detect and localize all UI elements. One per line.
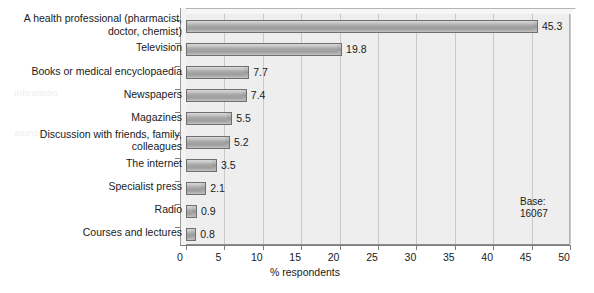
value-tick-label: 40 — [481, 251, 493, 263]
category-label-line: Specialist press — [2, 180, 182, 193]
base-annotation-label: Base: — [520, 196, 548, 208]
bar — [186, 182, 202, 195]
bar — [186, 89, 243, 102]
bar-value-label: 2.1 — [210, 181, 225, 195]
bar-row: 7.7 — [186, 66, 250, 79]
category-label-line: Newspapers — [2, 88, 182, 101]
gridline — [455, 14, 456, 244]
bar — [186, 43, 338, 56]
category-label: Television — [2, 41, 182, 54]
bar-chart-figure: anslation of Nutritio nutrition oitamrof… — [0, 0, 594, 293]
value-axis-line — [180, 245, 571, 246]
value-axis-title-text: % respondents — [270, 266, 340, 278]
value-tick-label: 35 — [443, 251, 455, 263]
value-tick — [340, 246, 341, 250]
bar-row: 5.2 — [186, 136, 231, 149]
category-label-line: The internet — [2, 157, 182, 170]
bar-end-cap — [244, 66, 249, 79]
bar-row: 45.3 — [186, 20, 539, 33]
category-label-line: Courses and lectures — [2, 226, 182, 239]
value-tick — [416, 246, 417, 250]
category-label: Newspapers — [2, 88, 182, 101]
category-label-line: doctor, chemist) — [2, 25, 182, 38]
value-tick — [455, 246, 456, 250]
category-label-line: Television — [2, 41, 182, 54]
category-label-line: Books or medical encyclopaedia — [2, 65, 182, 78]
gridline — [378, 14, 379, 244]
value-tick-label: 45 — [520, 251, 532, 263]
bar-value-label: 3.5 — [221, 158, 236, 172]
bar-row: 3.5 — [186, 159, 218, 172]
bar-value-label: 7.7 — [253, 65, 268, 79]
value-tick — [532, 246, 533, 250]
bar-value-label: 0.9 — [201, 204, 216, 218]
value-tick-label: 25 — [366, 251, 378, 263]
gridline — [493, 14, 494, 244]
category-label-line: colleagues — [2, 140, 182, 153]
bar-row: 0.8 — [186, 228, 197, 241]
bar-end-cap — [192, 205, 197, 218]
bar — [186, 20, 534, 33]
bar-end-cap — [191, 228, 196, 241]
gridline — [416, 14, 417, 244]
value-tick — [186, 246, 187, 250]
category-label-line: Magazines — [2, 111, 182, 124]
bar-value-label: 0.8 — [200, 227, 215, 241]
bar-value-label: 19.8 — [346, 42, 366, 56]
category-label: Specialist press — [2, 180, 182, 193]
category-label: Radio — [2, 203, 182, 216]
bar-row: 2.1 — [186, 182, 207, 195]
bar-end-cap — [227, 112, 232, 125]
bar-row: 7.4 — [186, 89, 248, 102]
value-tick — [224, 246, 225, 250]
bar-end-cap — [337, 43, 342, 56]
bar-end-cap — [242, 89, 247, 102]
bar-end-cap — [212, 159, 217, 172]
bar — [186, 66, 245, 79]
bar-end-cap — [533, 20, 538, 33]
bar-value-label: 5.2 — [234, 135, 249, 149]
bar-end-cap — [225, 136, 230, 149]
bar-row: 19.8 — [186, 43, 343, 56]
category-label: Books or medical encyclopaedia — [2, 65, 182, 78]
category-label-line: A health professional (pharmacist, — [2, 12, 182, 25]
bar-value-label: 7.4 — [251, 88, 266, 102]
category-label: Discussion with friends, family,colleagu… — [2, 128, 182, 153]
gridline — [570, 14, 571, 244]
bar-end-cap — [201, 182, 206, 195]
base-annotation-value: 16067 — [520, 208, 548, 220]
category-label-line: Discussion with friends, family, — [2, 128, 182, 141]
value-tick — [378, 246, 379, 250]
value-tick — [301, 246, 302, 250]
bar-row: 5.5 — [186, 112, 233, 125]
value-tick — [570, 246, 571, 250]
bar — [186, 112, 228, 125]
value-tick-label: 0 — [177, 251, 183, 263]
value-tick — [493, 246, 494, 250]
value-tick-label: 15 — [289, 251, 301, 263]
value-tick-label: 20 — [328, 251, 340, 263]
category-label: The internet — [2, 157, 182, 170]
plot-area: 45.319.87.77.45.55.23.52.10.90.8 — [186, 14, 570, 245]
value-tick-label: 50 — [558, 251, 570, 263]
bar-value-label: 45.3 — [542, 19, 562, 33]
bar-row: 0.9 — [186, 205, 198, 218]
value-tick-label: 30 — [405, 251, 417, 263]
category-label: Magazines — [2, 111, 182, 124]
value-axis-title: % respondents — [0, 266, 594, 278]
category-label: Courses and lectures — [2, 226, 182, 239]
bar — [186, 136, 226, 149]
base-annotation: Base: 16067 — [520, 196, 548, 220]
category-label-line: Radio — [2, 203, 182, 216]
category-label: A health professional (pharmacist,doctor… — [2, 12, 182, 37]
value-tick-label: 5 — [215, 251, 221, 263]
value-tick — [263, 246, 264, 250]
bar — [186, 159, 213, 172]
value-tick-label: 10 — [251, 251, 263, 263]
bar-value-label: 5.5 — [236, 111, 251, 125]
